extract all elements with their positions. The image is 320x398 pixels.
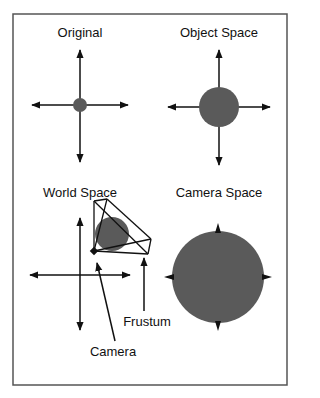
frustum-label: Frustum <box>123 315 171 329</box>
panel-object-space <box>168 50 270 165</box>
axis-arrow-tip <box>164 274 174 280</box>
panel-title-camera-space: Camera Space <box>176 186 263 200</box>
sphere <box>172 231 264 323</box>
axis-arrow-tip <box>215 321 221 331</box>
axis-arrow-tip <box>215 223 221 233</box>
camera-label: Camera <box>90 345 136 359</box>
panel-world-space <box>30 217 130 330</box>
panel-title-object-space: Object Space <box>180 26 258 40</box>
frustum-edge <box>94 251 148 254</box>
axis-arrow-tip <box>262 274 272 280</box>
sphere <box>73 98 87 112</box>
sphere <box>199 87 239 127</box>
sphere <box>95 217 129 251</box>
panel-original <box>32 50 128 162</box>
camera-icon <box>90 247 98 255</box>
panel-camera-space <box>164 223 272 331</box>
frustum-edge <box>148 239 151 254</box>
panel-title-world-space: World Space <box>43 186 117 200</box>
panel-title-original: Original <box>58 26 103 40</box>
